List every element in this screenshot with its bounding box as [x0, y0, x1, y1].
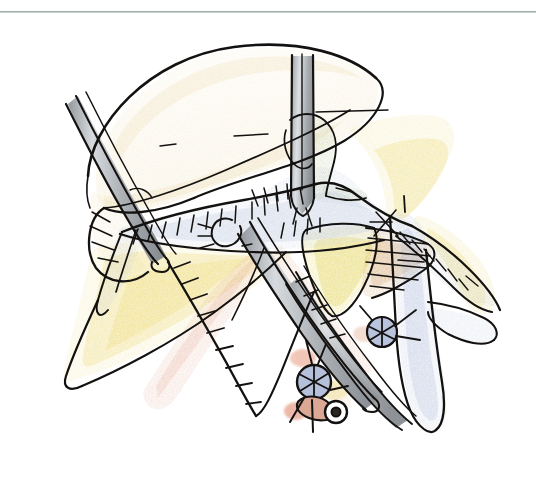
tick-mark-upper-right [404, 196, 405, 212]
illustration-page [0, 0, 536, 477]
surgical-illustration [0, 0, 536, 477]
